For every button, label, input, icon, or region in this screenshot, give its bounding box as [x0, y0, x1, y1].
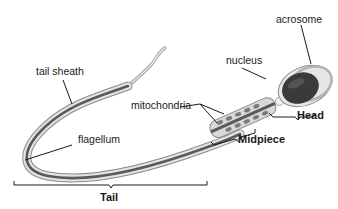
label-tail-region: Tail [100, 192, 118, 203]
label-head-region: Head [297, 110, 324, 121]
tail-bracket [14, 181, 207, 188]
head [272, 57, 338, 114]
label-tail-sheath: tail sheath [36, 66, 84, 77]
label-flagellum: flagellum [78, 134, 120, 145]
sperm-diagram: tail sheath flagellum mitochondria nucle… [0, 0, 338, 209]
label-midpiece-region: Midpiece [238, 134, 285, 145]
label-mitochondria: mitochondria [131, 100, 191, 111]
label-acrosome: acrosome [276, 14, 322, 25]
label-nucleus: nucleus [226, 55, 262, 66]
